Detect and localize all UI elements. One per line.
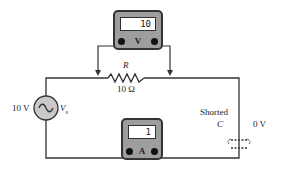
resistor-symbol: R (123, 61, 129, 70)
voltmeter-display: 10 (120, 17, 156, 31)
source-voltage: 10 V (12, 104, 30, 113)
resistor-value: 10 Ω (117, 85, 135, 94)
source-symbol: Vs (60, 104, 68, 115)
ammeter-unit: A (123, 146, 161, 156)
ammeter-reading: 1 (146, 127, 151, 137)
capacitor-voltage: 0 V (253, 120, 266, 129)
ammeter-display: 1 (128, 125, 156, 139)
voltmeter-unit: V (115, 36, 161, 46)
ammeter: 1 A (121, 118, 163, 160)
voltmeter: 10 V (113, 10, 163, 50)
capacitor-symbol: C (217, 120, 223, 129)
voltmeter-reading: 10 (140, 19, 151, 29)
capacitor-status: Shorted (200, 108, 228, 117)
